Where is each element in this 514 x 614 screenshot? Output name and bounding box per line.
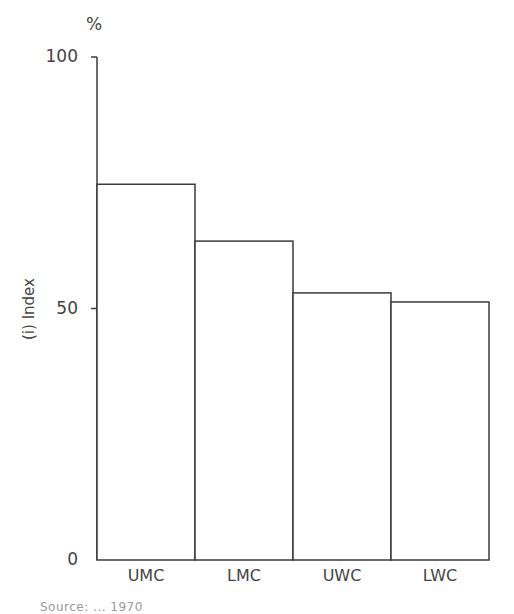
bar-lwc [391,302,489,560]
x-label-lmc: LMC [195,566,293,585]
x-label-lwc: LWC [391,566,489,585]
bar-uwc [293,293,391,560]
x-label-umc: UMC [97,566,195,585]
bar-umc [97,184,195,560]
x-label-uwc: UWC [293,566,391,585]
bar-lmc [195,241,293,560]
figure-caption-cutoff: Source: ... 1970 [40,600,143,614]
